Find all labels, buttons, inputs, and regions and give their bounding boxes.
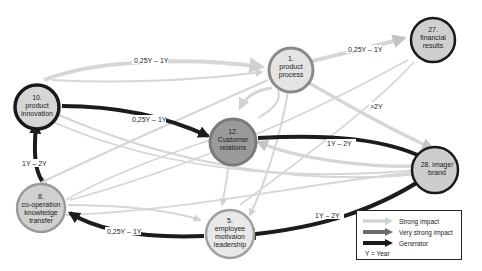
- edge-labels: 0,25Y – 1Y 0,25Y – 1Y 0,25Y – 1Y >2Y 1Y …: [20, 45, 385, 235]
- node-line: leadership: [214, 241, 246, 249]
- edge-label-n8-n10: 1Y – 2Y: [22, 160, 47, 167]
- gray-arrow-icon: [363, 227, 393, 237]
- node-number: 10.: [32, 94, 42, 101]
- legend-item-strong-impact: Strong impact: [363, 216, 439, 226]
- node-number: 27.: [428, 26, 438, 33]
- legend-note: Y = Year: [365, 250, 390, 257]
- node-number: 1.: [288, 55, 294, 62]
- node-line: financial: [420, 34, 446, 41]
- edge-label-n5-n8: 0,25Y – 1Y: [107, 228, 142, 235]
- node-line: knowledge: [24, 209, 58, 217]
- edge-label-n10-n12: 0,25Y – 1Y: [132, 116, 167, 123]
- legend-item-generator: Generator: [363, 238, 428, 248]
- node-line: product: [25, 102, 48, 110]
- edge-n8-n10: [35, 124, 42, 181]
- node-line: employee: [215, 225, 245, 233]
- legend-label: Very strong impact: [399, 229, 453, 236]
- node-line: motivaion: [215, 233, 245, 240]
- node-line: co-operation: [22, 201, 61, 209]
- node-line: process: [279, 71, 304, 79]
- edge-n10-n1-b: [52, 72, 262, 82]
- edge-n12-n1: [258, 90, 279, 118]
- node-line: innovation: [21, 110, 53, 117]
- node-number: 8.: [38, 193, 44, 200]
- node-line: results: [423, 42, 444, 49]
- edge-n8-n5: [68, 205, 200, 220]
- edge-n8-n28: [66, 170, 436, 215]
- edge-label-n12-n28: 1Y – 2Y: [327, 140, 352, 147]
- node-line: product: [279, 63, 302, 71]
- node-product-process[interactable]: 1. product process: [269, 48, 313, 92]
- node-number: 5.: [227, 217, 233, 224]
- legend-label: Strong impact: [399, 218, 439, 225]
- node-customer-relations[interactable]: 12. Customer relations: [210, 119, 256, 165]
- legend-item-very-strong-impact: Very strong impact: [363, 227, 453, 237]
- node-financial-results[interactable]: 27. financial results: [411, 18, 455, 62]
- edge-label-n1-n28: >2Y: [370, 103, 383, 110]
- legend-label: Generator: [399, 240, 428, 247]
- edge-label-n10-n1: 0,25Y – 1Y: [134, 57, 169, 64]
- edge-label-n28-n5: 1Y – 2Y: [315, 212, 340, 219]
- edge-n10-n1: [44, 61, 262, 80]
- node-product-innovation[interactable]: 10. product innovation: [15, 85, 59, 129]
- dark-arrow-icon: [363, 238, 393, 248]
- edge-label-n1-n27: 0,25Y – 1Y: [348, 46, 383, 53]
- node-image-brand[interactable]: 28. image/ brand: [412, 147, 458, 193]
- node-number: 28. image/: [421, 161, 454, 169]
- light-arrow-icon: [363, 216, 393, 226]
- node-number: 12.: [228, 128, 238, 135]
- node-line: transfer: [29, 217, 53, 224]
- legend: Strong impact Very strong impact Generat…: [356, 210, 462, 260]
- node-employee-motivation-leadership[interactable]: 5. employee motivaion leadership: [206, 210, 254, 258]
- node-line: brand: [428, 169, 446, 176]
- edge-n12-n8: [66, 140, 210, 200]
- node-line: relations: [220, 144, 247, 151]
- node-co-operation-knowledge-transfer[interactable]: 8. co-operation knowledge transfer: [17, 184, 65, 232]
- node-line: Customer: [218, 136, 249, 143]
